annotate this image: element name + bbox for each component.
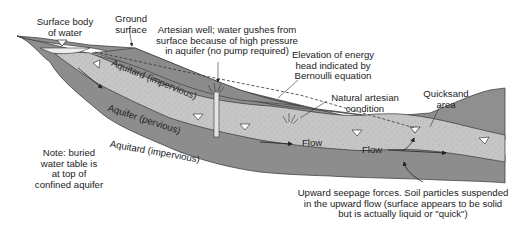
artesian-well-pipe <box>214 92 219 137</box>
label-upward-seepage: Upward seepage forces. Soil particles su… <box>293 188 513 220</box>
label-line: condition <box>325 104 405 115</box>
label-energy-head: Elevation of energy head indicated by Be… <box>286 50 380 82</box>
label-line: surface <box>107 25 155 36</box>
label-line: area <box>418 100 474 111</box>
label-quicksand: Quicksand area <box>418 89 474 110</box>
label-line: but is actually liquid or "quick") <box>293 209 513 220</box>
flow-label: Flow <box>302 137 322 148</box>
label-line: of water <box>34 28 96 39</box>
label-line: Bernoulli equation <box>286 71 380 82</box>
label-line: Quicksand <box>418 89 474 100</box>
label-line: Elevation of energy <box>286 50 380 61</box>
label-ground-surface: Ground surface <box>107 14 155 35</box>
label-line: Upward seepage forces. Soil particles su… <box>293 188 513 199</box>
leader-energy-head <box>278 80 298 98</box>
label-line: Natural artesian <box>325 93 405 104</box>
label-line: Note: buried <box>34 148 104 159</box>
aquifer-diagram: Surface body of water Ground surface Art… <box>0 0 519 229</box>
label-artesian-well: Artesian well; water gushes from surface… <box>152 25 302 57</box>
label-natural-artesian: Natural artesian condition <box>325 93 405 114</box>
flow-label: Flow <box>362 144 382 155</box>
label-line: confined aquifer <box>34 180 104 191</box>
label-line: Artesian well; water gushes from <box>152 25 302 36</box>
label-line: Surface body <box>34 17 96 28</box>
label-note: Note: buried water table is at top of co… <box>34 148 104 190</box>
label-line: in aquifer (no pump required) <box>152 46 302 57</box>
label-line: Ground <box>107 14 155 25</box>
label-surface-body-of-water: Surface body of water <box>34 17 96 38</box>
